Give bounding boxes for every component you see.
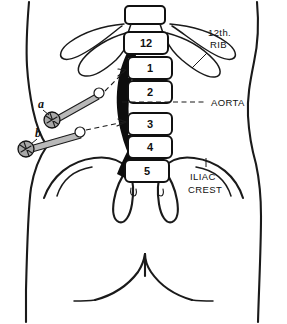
vertebra-number-t12: 12 — [140, 37, 152, 49]
vertebra-box-l2: 2 — [128, 81, 172, 103]
marker-b-leader — [31, 139, 37, 144]
marker-a-text: a — [38, 97, 44, 111]
figure-canvas: 12 1 2 3 4 5 — [0, 0, 287, 324]
vertebra-number-l4: 4 — [147, 141, 154, 153]
callout-iliac-crest: ILIAC CREST — [188, 158, 222, 195]
vertebra-number-l3: 3 — [147, 118, 153, 130]
vertebra-number-l5: 5 — [144, 165, 150, 177]
vertebra-box-l1: 1 — [128, 57, 172, 79]
marker-label-a: a — [38, 97, 49, 115]
needle-b-ring — [75, 127, 85, 137]
callout-aorta-text: AORTA — [211, 97, 245, 108]
vertebra-box-l5: 5 — [125, 160, 169, 182]
marker-label-b: b — [31, 126, 41, 144]
needle-a — [44, 69, 126, 128]
vertebra-box-l4: 4 — [128, 136, 172, 158]
callout-12th-rib: 12th. RIB — [192, 27, 231, 68]
callout-12th-rib-line1: 12th. — [208, 27, 231, 38]
marker-b-text: b — [35, 126, 41, 140]
callout-12th-rib-leader — [192, 53, 207, 68]
anatomical-figure: 12 1 2 3 4 5 — [0, 0, 287, 324]
vertebra-box-t12: 12 — [124, 32, 168, 54]
gluteal-region — [74, 254, 213, 301]
callout-iliac-crest-line2: CREST — [188, 184, 222, 195]
callout-iliac-crest-line1: ILIAC — [190, 171, 216, 182]
vertebra-number-l2: 2 — [147, 86, 153, 98]
needle-a-ring — [94, 88, 104, 98]
callout-12th-rib-line2: RIB — [210, 39, 227, 50]
vertebra-box-l3: 3 — [128, 113, 172, 135]
vertebra-number-l1: 1 — [147, 62, 153, 74]
upper-vertebra-t11 — [125, 6, 165, 33]
